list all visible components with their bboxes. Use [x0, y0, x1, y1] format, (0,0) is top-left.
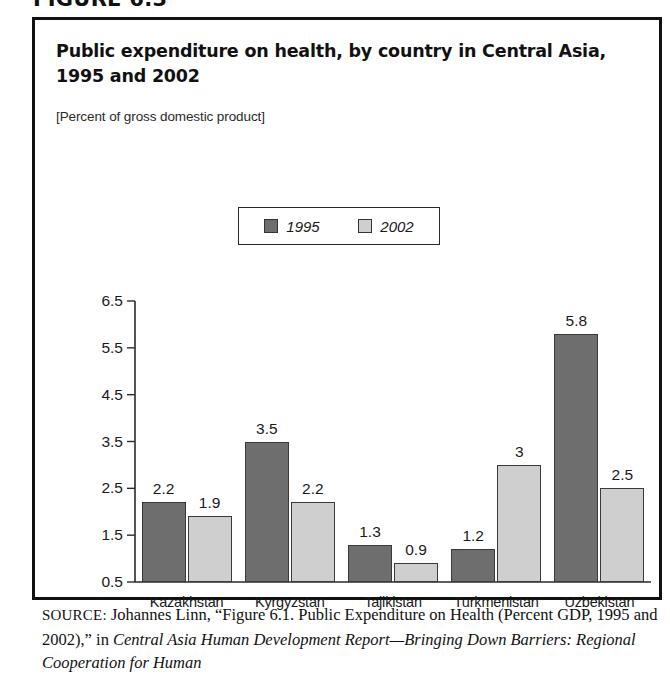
chart-title: Public expenditure on health, by country…	[56, 39, 626, 89]
bar-uzbekistan-1995	[554, 334, 598, 582]
legend-swatch-dark-icon	[264, 219, 278, 233]
figure-box: Public expenditure on health, by country…	[32, 17, 662, 600]
bar-kyrgyzstan-1995	[245, 442, 289, 583]
y-tick-label: 2.5	[101, 479, 123, 497]
plot-area: 0.51.52.53.54.55.56.5 2.21.93.52.21.30.9…	[103, 292, 655, 592]
bar-value-label: 2.2	[302, 480, 324, 498]
figure-number: FIGURE 6.3	[33, 0, 167, 11]
y-tick-label: 5.5	[101, 339, 123, 357]
bar-value-label: 0.9	[405, 541, 427, 559]
bar-turkmenistan-2002	[497, 465, 541, 582]
y-tick-label: 3.5	[101, 433, 123, 451]
bar-value-label: 5.8	[566, 312, 588, 330]
legend-item-1995: 1995	[264, 218, 319, 235]
bar-value-label: 2.2	[153, 480, 175, 498]
y-tick-label: 6.5	[101, 292, 123, 310]
bar-turkmenistan-1995	[451, 549, 495, 582]
bar-value-label: 1.9	[199, 494, 221, 512]
bar-tajikistan-1995	[348, 545, 392, 582]
y-tick-label: 0.5	[101, 573, 123, 591]
y-tick-label: 1.5	[101, 526, 123, 544]
legend-label-2002: 2002	[380, 218, 413, 235]
bar-value-label: 1.3	[359, 523, 381, 541]
bar-value-label: 1.2	[462, 527, 484, 545]
source-label: SOURCE:	[42, 607, 107, 623]
bar-uzbekistan-2002	[600, 488, 644, 582]
legend-label-1995: 1995	[286, 218, 319, 235]
y-tick-label: 4.5	[101, 386, 123, 404]
bar-kazakhstan-1995	[142, 502, 186, 582]
bar-kyrgyzstan-2002	[291, 502, 335, 582]
source-note: SOURCE: Johannes Linn, “Figure 6.1. Publ…	[42, 603, 658, 675]
source-publication-title: Central Asia Human Development	[113, 630, 340, 649]
chart-subtitle: [Percent of gross domestic product]	[56, 109, 265, 124]
chart-legend: 1995 2002	[238, 207, 440, 245]
legend-swatch-light-icon	[358, 219, 372, 233]
bar-tajikistan-2002	[394, 563, 438, 582]
source-text-line1: Johannes Linn, “Figure 6.1. Public Expen…	[107, 605, 494, 624]
bar-value-label: 3.5	[256, 420, 278, 438]
bar-value-label: 2.5	[612, 466, 634, 484]
legend-item-2002: 2002	[358, 218, 413, 235]
bar-kazakhstan-2002	[188, 516, 232, 582]
bar-value-label: 3	[515, 443, 524, 461]
